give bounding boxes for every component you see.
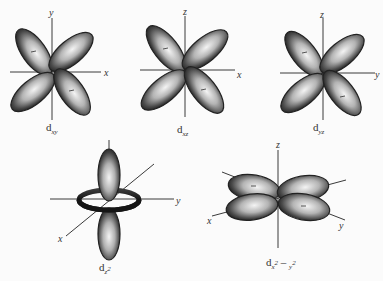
caption-dx2-y2: dx2 – y2 — [266, 256, 296, 271]
orbital-dxz: x z dxz — [135, 6, 242, 138]
orbital-dyz: y z dyz — [275, 9, 380, 136]
z-axis-label: z — [182, 6, 187, 17]
y-axis-label: y — [175, 195, 181, 206]
z-axis-label: z — [319, 9, 324, 20]
caption-dz2: dz2 — [99, 261, 111, 276]
y-axis-label: y — [48, 7, 54, 18]
z-axis-label: z — [275, 139, 280, 150]
lobe-lower — [98, 208, 120, 260]
caption-dxy: dxy — [46, 121, 59, 136]
lobe-upper-right — [43, 25, 100, 78]
lobe-lower-left — [5, 65, 62, 118]
x-axis-label: x — [206, 215, 212, 226]
x-axis-label: x — [236, 69, 242, 80]
x-axis-label: x — [57, 233, 63, 244]
orbital-dz2: y x dz2 — [50, 140, 181, 276]
orbital-dxy: x y dxy — [5, 7, 109, 136]
d-orbitals-diagram: x y dxy x z dxz y z dyz — [0, 0, 383, 281]
lobe-upper — [98, 149, 120, 201]
orbital-dx2-y2: z x y dx2 – y2 — [206, 139, 346, 271]
x-axis-label: x — [103, 67, 109, 78]
caption-dyz: dyz — [313, 121, 325, 136]
y-axis-label: y — [338, 220, 344, 231]
y-axis-label: y — [374, 69, 380, 80]
caption-dxz: dxz — [177, 123, 189, 138]
